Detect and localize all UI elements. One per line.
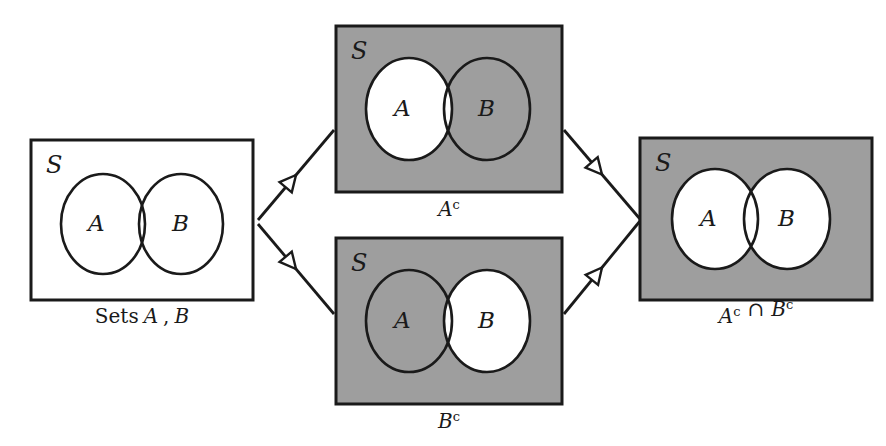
arrow-sets-to-ac — [258, 130, 334, 220]
set-label-b-b-complement: B — [477, 307, 495, 333]
panel-a-complement: SABAc — [336, 26, 562, 221]
caption-part: Sets — [95, 304, 139, 328]
caption-base: B — [770, 297, 786, 321]
caption-base: B — [437, 409, 453, 433]
venn-diagram-figure: SABSetsA,BSABAcSABBcSABAc∩Bc — [0, 0, 886, 446]
panel-sets-ab: SABSetsA,B — [31, 140, 253, 328]
panel-b-complement: SABBc — [336, 238, 562, 433]
set-label-a-b-complement: A — [392, 307, 411, 333]
caption-part: A — [142, 304, 158, 328]
set-label-a-sets-ab: A — [86, 210, 105, 236]
set-label-b-a-complement: B — [477, 95, 495, 121]
panel-a-complement-intersect-b-complement: SABAc∩Bc — [640, 138, 872, 328]
set-label-a-a-complement-intersect-b-complement: A — [698, 205, 717, 231]
caption-part: , — [163, 304, 169, 328]
caption-part: B — [173, 304, 189, 328]
caption-base: A — [717, 304, 733, 328]
universe-symbol-a-complement: S — [351, 37, 367, 65]
caption-superscript: c — [453, 409, 460, 424]
caption-operator: ∩ — [747, 297, 764, 321]
caption-superscript: c — [453, 197, 460, 212]
arrow-sets-to-bc — [258, 224, 334, 314]
universe-symbol-a-complement-intersect-b-complement: S — [655, 149, 671, 177]
set-label-b-sets-ab: B — [171, 210, 189, 236]
caption-b-complement: Bc — [437, 409, 460, 433]
venn-diagram-canvas: SABSetsA,BSABAcSABBcSABAc∩Bc — [0, 0, 886, 446]
arrow-ac-to-result — [564, 130, 640, 219]
set-label-b-a-complement-intersect-b-complement: B — [777, 205, 795, 231]
caption-a-complement: Ac — [436, 197, 460, 221]
set-label-a-a-complement: A — [392, 95, 411, 121]
arrow-bc-to-result — [564, 221, 640, 314]
caption-a-complement-intersect-b-complement: Ac∩Bc — [717, 297, 793, 328]
universe-symbol-b-complement: S — [351, 249, 367, 277]
caption-superscript: c — [733, 304, 740, 319]
caption-base: A — [436, 197, 452, 221]
universe-symbol-sets-ab: S — [46, 151, 62, 179]
caption-superscript: c — [786, 297, 793, 312]
caption-sets-ab: SetsA,B — [95, 304, 189, 328]
